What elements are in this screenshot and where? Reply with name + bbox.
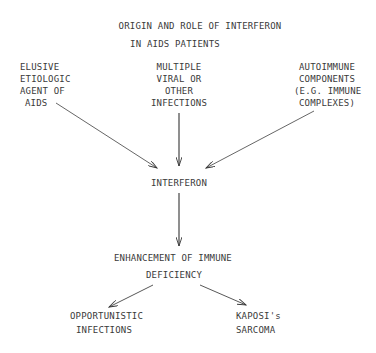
node-text: COMPONENTS [294,73,360,85]
node-text: OTHER [149,85,209,97]
title-line-2: IN AIDS PATIENTS [75,38,275,50]
node-text: MULTIPLE [149,61,209,73]
node-text: OPPORTUNISTIC [70,310,138,322]
title-line-1: ORIGIN AND ROLE OF INTERFERON [100,20,300,32]
node-text: (E.G. IMMUNE [294,85,360,97]
arrow-enhancement-to-opportunistic [109,285,153,307]
node-text: KAPOSI's [236,310,281,322]
node-text: COMPLEXES) [294,97,360,109]
node-text: DEFICIENCY [109,269,239,281]
node-kaposis-sarcoma: KAPOSI's SARCOMA [236,310,281,336]
arrow-agent-to-interferon [56,103,157,168]
node-interferon: INTERFERON [149,177,209,189]
diagram-title: ORIGIN AND ROLE OF INTERFERON IN AIDS PA… [100,20,300,50]
arrow-autoimmune-to-interferon [206,111,314,168]
node-text: ELUSIVE [20,61,71,73]
node-text: VIRAL OR [149,73,209,85]
node-text: ENHANCEMENT OF IMMUNE [108,252,238,264]
arrow-enhancement-to-kaposi [200,285,246,305]
node-opportunistic-infections: OPPORTUNISTIC INFECTIONS [70,310,138,336]
node-text: INFECTIONS [70,324,138,336]
node-text: ETIOLOGIC [20,73,71,85]
node-enhancement-immune-deficiency: ENHANCEMENT OF IMMUNE DEFICIENCY [113,252,243,281]
node-autoimmune-components: AUTOIMMUNE COMPONENTS (E.G. IMMUNE COMPL… [294,61,360,109]
node-multiple-infections: MULTIPLE VIRAL OR OTHER INFECTIONS [149,61,209,109]
node-text: AGENT OF [20,85,71,97]
node-text: INFECTIONS [149,97,209,109]
node-elusive-agent: ELUSIVE ETIOLOGIC AGENT OF AIDS [20,61,71,109]
node-text: INTERFERON [149,177,209,189]
node-text: SARCOMA [236,324,281,336]
node-text: AIDS [20,97,71,109]
node-text: AUTOIMMUNE [294,61,360,73]
